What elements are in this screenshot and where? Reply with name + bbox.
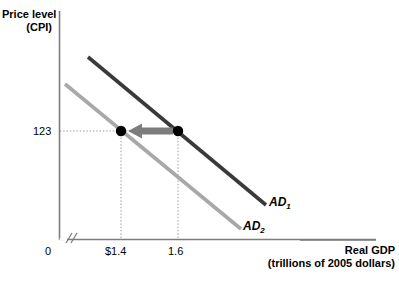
x-axis-title-line1: Real GDP [345,244,395,256]
ad1-label-subscript: 1 [286,202,290,211]
x-tick-label-1-6: 1.6 [168,245,183,258]
equilibrium-point-ad1 [173,126,183,136]
guide-lines [60,131,178,239]
x-tick-label-1-4: $1.4 [105,245,126,258]
ad2-label-text: AD [243,219,260,233]
equilibrium-point-ad2 [116,126,126,136]
ad2-curve-label: AD2 [243,220,265,234]
axis-break-icon [60,233,78,243]
ad1-label-text: AD [269,195,286,209]
y-axis-title: Price level (CPI) [2,8,52,33]
y-axis-title-line2: (CPI) [2,21,52,34]
x-axis-title-line2: (trillions of 2005 dollars) [245,257,395,270]
y-tick-label-123: 123 [33,125,51,138]
x-axis-title: Real GDP (trillions of 2005 dollars) [245,244,395,269]
y-axis-title-line1: Price level [2,8,56,20]
axis-lines [60,11,377,240]
ad2-label-subscript: 2 [260,226,264,235]
ad1-curve-label: AD1 [269,196,291,210]
origin-label: 0 [45,245,51,258]
shift-arrow-icon [128,124,173,139]
ad-shift-figure: Price level (CPI) Real GDP (trillions of… [0,0,399,282]
chart-canvas [0,0,399,282]
ad2-curve [65,84,241,229]
